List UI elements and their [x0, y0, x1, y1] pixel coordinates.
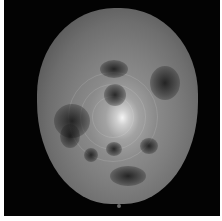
- image-frame: [4, 0, 220, 216]
- dark-spot-lower-center: [106, 142, 122, 156]
- dark-spot-center-left: [104, 84, 126, 106]
- dark-spot-bottom: [110, 166, 146, 186]
- dark-spot-upper-center: [100, 60, 128, 78]
- dark-spot-upper-right: [150, 66, 180, 100]
- bottom-tip: [117, 204, 121, 208]
- dark-spot-left-lower: [60, 124, 80, 148]
- dark-spot-lower-left: [84, 148, 98, 162]
- dark-spot-lower-right: [140, 138, 158, 154]
